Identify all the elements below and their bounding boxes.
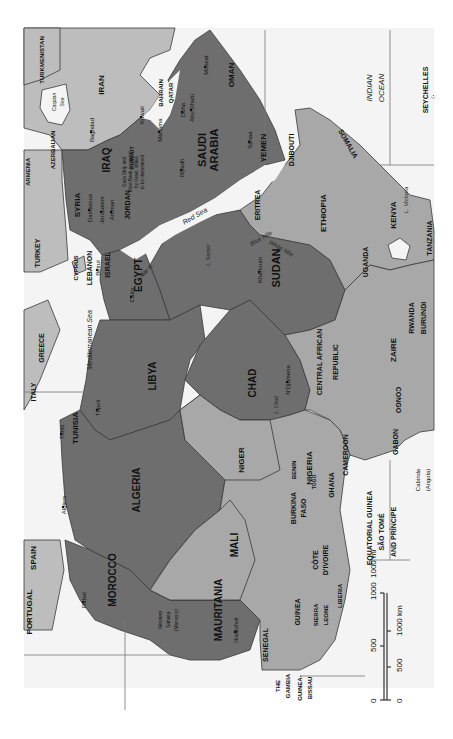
country-label-senegal: SENEGAL — [262, 627, 269, 662]
country-label-tunisia: TUNISIA — [71, 412, 80, 444]
country-label-seychelles: SEYCHELLES — [422, 66, 429, 113]
country-label-togo: TOGO — [311, 475, 317, 490]
country-label-portugal: PORTUGAL — [25, 589, 34, 634]
country-label-qatar: QATAR — [168, 82, 174, 103]
city-label-khartoum: Khartoum — [257, 257, 263, 283]
country-label-azerbaijan: AZERBAIJAN — [50, 131, 56, 170]
city-label-abu-dhabi: Abu Dhabi — [189, 94, 195, 122]
country-label-the: THE — [275, 680, 281, 692]
annotation-label-western: Western — [157, 611, 163, 630]
country-label-republic: REPUBLIC — [332, 344, 339, 380]
annotation-label-to-be-determined: to be determined — [140, 155, 145, 189]
country-label-iraq: IRAQ — [101, 147, 112, 172]
country-label-lebanon: LEBANON — [86, 251, 93, 286]
country-label-jordan: JORDAN — [124, 190, 131, 220]
city-label-sanaa: Sanaa — [247, 131, 253, 149]
country-label-rwanda: RWANDA — [408, 302, 415, 333]
city-label-doha: Doha — [180, 102, 186, 117]
country-label-ethiopia: ETHIOPIA — [319, 194, 328, 232]
country-label-c-te: CÔTE — [311, 550, 319, 570]
country-label-central-african: CENTRAL AFRICAN — [316, 329, 323, 396]
city-label-rabat: Rabat — [81, 592, 87, 608]
city-label-baghdad: Baghdad — [89, 118, 95, 142]
country-label-cyprus: CYPRUS — [73, 255, 79, 280]
country-label-burundi: BURUNDI — [420, 302, 427, 334]
water-label-mediterranean-sea: Mediterranean Sea — [86, 310, 93, 370]
scale-km-tick-500: 500 — [395, 658, 404, 672]
country-label-djibouti: DJIBOUTI — [288, 134, 295, 167]
water-label-ocean: OCEAN — [377, 74, 386, 103]
city-label-nouakchott: Nouakchott — [233, 617, 239, 643]
country-label-libya: LIBYA — [147, 361, 158, 390]
country-label-sudan: SUDAN — [270, 248, 282, 287]
country-label-d-ivoire: D'IVOIRE — [322, 544, 329, 575]
scale-km-unit: 1000 km — [395, 605, 404, 636]
city-label-muscat: Muscat — [203, 55, 209, 75]
country-label-yemen: YEMEN — [259, 134, 268, 163]
city-label-manama: Manama — [157, 118, 163, 142]
annotation-label-west-bank-occupied: West Bank occupied — [128, 151, 133, 192]
city-label-kuwait: Kuwait — [139, 106, 145, 124]
city-label-tunis: Tunis — [59, 425, 65, 439]
annotation-label-cabinda: Cabinda — [415, 468, 421, 491]
annotation-label-sahara: Sahara — [165, 612, 171, 628]
water-label-caspian: Caspian — [51, 93, 57, 112]
country-label-ghana: GHANA — [328, 472, 335, 498]
country-label-sierra: SIERRA — [313, 603, 319, 626]
city-label-n-djamena: N'Djamena — [285, 365, 291, 395]
country-label-bahrain: BAHRAIN — [158, 79, 164, 107]
seychelles-islands-icon: ⁘ — [430, 93, 437, 102]
city-label-damascus: Damascus — [87, 194, 93, 222]
water-label-l-chad: L. Chad — [273, 396, 279, 414]
scale-mi-tick-500: 500 — [369, 638, 378, 652]
country-label-mauritania: MAURITANIA — [213, 579, 224, 642]
country-label-tanzania: TANZANIA — [426, 220, 433, 255]
country-label-s-o-tom: SÃO TOMÉ — [377, 513, 385, 551]
country-label-guinea: GUINEA — [294, 598, 301, 625]
city-label-tripoli: Tripoli — [95, 400, 101, 416]
annotation-label-morocco: (Morocco) — [173, 608, 179, 631]
country-label-kenya: KENYA — [389, 201, 398, 228]
country-label-equatorial-guinea: EQUATORIAL GUINEA — [366, 491, 374, 566]
country-label-italy: ITALY — [30, 382, 37, 401]
country-label-algeria: ALGERIA — [131, 468, 142, 513]
annotation-label-angola: (Angola) — [425, 469, 431, 492]
country-label-bissau: BISSAU — [307, 677, 313, 700]
annotation-label-by-israel-status: by Israel; status — [134, 155, 139, 187]
country-label-faso: FASO — [300, 498, 307, 518]
water-label-l-nasser: L. Nasser — [205, 244, 211, 266]
scale-mi-tick-1000: 1000 — [369, 582, 378, 600]
city-label-amman: Amman — [109, 200, 115, 221]
country-label-saudi: SAUDI — [196, 133, 208, 167]
country-label-morocco: MOROCCO — [107, 553, 118, 607]
water-label-sea: Sea — [59, 97, 65, 106]
water-label-indian: INDIAN — [365, 74, 374, 101]
city-label-beirut: Beirut — [95, 260, 101, 276]
country-label-iran: IRAN — [97, 75, 106, 95]
annotation-label-gaza-strip-and: Gaza Strip and — [122, 157, 127, 188]
country-label-cameroon: CAMEROON — [342, 434, 349, 476]
country-label-gambia: GAMBIA — [285, 673, 291, 698]
country-label-zaire: ZAIRE — [389, 337, 398, 362]
country-label-syria: SYRIA — [73, 193, 82, 218]
country-label-niger: NIGER — [237, 447, 246, 473]
scale-mi-tick-0: 0 — [369, 698, 378, 703]
country-label-benin: BENIN — [291, 461, 297, 480]
country-label-armenia: ARMENIA — [25, 157, 31, 186]
country-label-mali: MALI — [229, 533, 240, 558]
country-label-arabia: ARABIA — [208, 129, 220, 172]
country-label-congo: CONGO — [395, 387, 402, 414]
city-label-riyadh: Riyadh — [179, 159, 185, 178]
city-label-algiers: Algiers — [61, 496, 67, 514]
scale-km-tick-0: 0 — [395, 698, 404, 703]
country-label-israel: ISRAEL — [104, 251, 111, 277]
map-canvas: 0 500 1000 1000 mi 0 500 1000 km ⁘ PORTU… — [0, 0, 453, 739]
country-label-uganda: UGANDA — [362, 247, 369, 278]
country-label-greece: GREECE — [38, 333, 45, 363]
water-label-l-victoria: L. Victoria — [403, 186, 409, 213]
country-label-turkmenistan: TURKMENISTAN — [39, 36, 45, 84]
country-label-guinea: GUINEA- — [297, 675, 303, 700]
country-label-leone: LEONE — [323, 605, 329, 626]
country-label-burkina: BURKINA — [290, 492, 297, 524]
city-label-cairo: Cairo — [129, 287, 135, 302]
